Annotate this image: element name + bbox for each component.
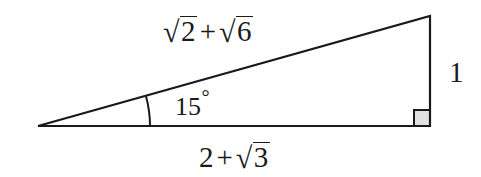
sqrt-term-1: √2 [163, 14, 197, 46]
radical-sign-icon: √ [163, 17, 180, 47]
radical-sign-icon: √ [219, 17, 236, 47]
vertical-leg-label: 1 [449, 58, 464, 87]
base-label: 2+√3 [199, 140, 270, 172]
sqrt-term-base: √3 [236, 140, 270, 172]
sqrt-term-2: √6 [219, 14, 253, 46]
plus-operator-hypotenuse: + [197, 17, 219, 46]
right-angle-marker [414, 110, 430, 126]
base-term-1: 2 [199, 141, 214, 173]
plus-operator-base: + [214, 143, 236, 172]
radical-sign-icon: √ [236, 143, 253, 173]
hypotenuse-label: √2+√6 [163, 14, 253, 46]
triangle-figure: √2+√6 2+√3 1 15° [0, 0, 481, 177]
angle-value: 15 [175, 92, 201, 121]
radicand-base: 3 [253, 142, 270, 172]
angle-arc [146, 97, 150, 126]
degree-symbol-icon: ° [201, 86, 210, 108]
angle-label: 15° [175, 87, 210, 120]
radicand-1: 2 [180, 16, 197, 46]
radicand-2: 6 [236, 16, 253, 46]
